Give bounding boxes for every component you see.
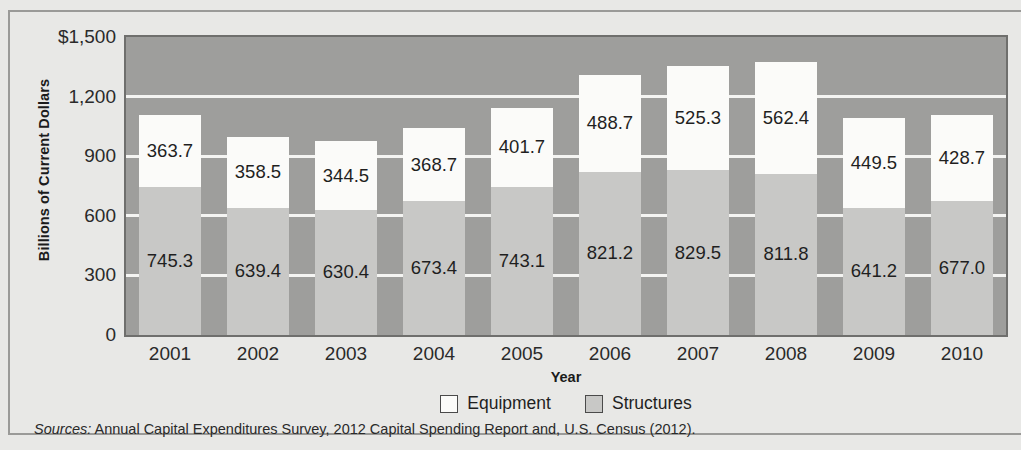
x-tick-label: 2006 <box>589 343 631 365</box>
bar-segment-structures[interactable]: 829.5 <box>667 170 729 335</box>
legend-swatch-equipment <box>440 395 458 413</box>
bar-segment-structures[interactable]: 673.4 <box>403 201 465 335</box>
bar-value-label: 449.5 <box>851 152 897 174</box>
bar-value-label: 821.2 <box>587 242 633 264</box>
bar-segment-structures[interactable]: 677.0 <box>931 201 993 335</box>
bar-segment-equipment[interactable]: 562.4 <box>755 62 817 174</box>
bar-value-label: 745.3 <box>147 250 193 272</box>
bar-value-label: 363.7 <box>147 140 193 162</box>
bar-value-label: 630.4 <box>323 261 369 283</box>
y-tick-label: $1,500 <box>20 26 116 48</box>
y-tick-label: 900 <box>20 145 116 167</box>
source-label: Sources: <box>34 421 91 437</box>
bar-group[interactable]: 562.4811.8 <box>755 62 817 335</box>
x-tick-label: 2010 <box>941 343 983 365</box>
x-tick-label: 2001 <box>149 343 191 365</box>
legend-swatch-structures <box>585 395 603 413</box>
y-tick-label: 600 <box>20 205 116 227</box>
source-text: Annual Capital Expenditures Survey, 2012… <box>91 421 695 437</box>
bar-segment-equipment[interactable]: 525.3 <box>667 66 729 170</box>
bar-segment-structures[interactable]: 745.3 <box>139 187 201 335</box>
bar-group[interactable]: 363.7745.3 <box>139 115 201 335</box>
y-tick-label: 300 <box>20 264 116 286</box>
plot-area: 363.7745.3358.5639.4344.5630.4368.7673.4… <box>124 35 1008 337</box>
bar-segment-structures[interactable]: 639.4 <box>227 208 289 335</box>
legend-label: Equipment <box>467 393 551 414</box>
bar-value-label: 401.7 <box>499 136 545 158</box>
bar-segment-structures[interactable]: 743.1 <box>491 187 553 335</box>
bar-value-label: 562.4 <box>763 107 809 129</box>
bar-segment-equipment[interactable]: 358.5 <box>227 137 289 208</box>
x-tick-label: 2009 <box>853 343 895 365</box>
gridline <box>126 95 1006 98</box>
bar-value-label: 677.0 <box>939 257 985 279</box>
bar-segment-equipment[interactable]: 449.5 <box>843 118 905 207</box>
x-tick-label: 2002 <box>237 343 279 365</box>
y-tick-label: 0 <box>20 324 116 346</box>
bar-group[interactable]: 368.7673.4 <box>403 128 465 335</box>
bar-segment-equipment[interactable]: 488.7 <box>579 75 641 172</box>
bar-segment-structures[interactable]: 811.8 <box>755 174 817 335</box>
bar-value-label: 344.5 <box>323 165 369 187</box>
bar-group[interactable]: 401.7743.1 <box>491 108 553 335</box>
legend-item[interactable]: Equipment <box>440 393 551 414</box>
bar-segment-structures[interactable]: 641.2 <box>843 208 905 335</box>
bar-segment-structures[interactable]: 821.2 <box>579 172 641 335</box>
bar-value-label: 488.7 <box>587 112 633 134</box>
bar-value-label: 368.7 <box>411 154 457 176</box>
bar-group[interactable]: 344.5630.4 <box>315 141 377 335</box>
y-tick-label: 1,200 <box>20 86 116 108</box>
bar-value-label: 639.4 <box>235 260 281 282</box>
legend-label: Structures <box>612 393 692 414</box>
x-tick-label: 2003 <box>325 343 367 365</box>
chart-frame: Billions of Current Dollars 03006009001,… <box>8 10 1021 435</box>
x-tick-label: 2008 <box>765 343 807 365</box>
bar-segment-equipment[interactable]: 344.5 <box>315 141 377 209</box>
x-tick-label: 2004 <box>413 343 455 365</box>
legend-item[interactable]: Structures <box>585 393 692 414</box>
bar-value-label: 525.3 <box>675 107 721 129</box>
source-note: Sources: Annual Capital Expenditures Sur… <box>34 421 696 437</box>
bar-group[interactable]: 358.5639.4 <box>227 137 289 335</box>
chart-legend: EquipmentStructures <box>124 393 1008 414</box>
bar-group[interactable]: 428.7677.0 <box>931 115 993 335</box>
chart-figure: Billions of Current Dollars 03006009001,… <box>0 0 1021 450</box>
bar-value-label: 811.8 <box>764 243 809 265</box>
bar-segment-equipment[interactable]: 401.7 <box>491 108 553 188</box>
x-tick-label: 2007 <box>677 343 719 365</box>
bar-segment-equipment[interactable]: 428.7 <box>931 115 993 200</box>
y-axis-tick-labels: 03006009001,200$1,500 <box>18 35 116 337</box>
x-axis-title: Year <box>124 369 1008 385</box>
plot-inner: 363.7745.3358.5639.4344.5630.4368.7673.4… <box>126 37 1006 335</box>
bar-group[interactable]: 525.3829.5 <box>667 66 729 335</box>
x-tick-label: 2005 <box>501 343 543 365</box>
bar-value-label: 673.4 <box>411 257 457 279</box>
bar-value-label: 829.5 <box>675 242 721 264</box>
bar-group[interactable]: 449.5641.2 <box>843 118 905 335</box>
bar-value-label: 358.5 <box>235 161 281 183</box>
x-axis-tick-labels: 2001200220032004200520062007200820092010 <box>124 343 1008 369</box>
bar-segment-equipment[interactable]: 363.7 <box>139 115 201 187</box>
bar-value-label: 428.7 <box>939 147 985 169</box>
bar-value-label: 641.2 <box>851 260 897 282</box>
bar-value-label: 743.1 <box>499 250 545 272</box>
bar-segment-structures[interactable]: 630.4 <box>315 210 377 335</box>
bar-segment-equipment[interactable]: 368.7 <box>403 128 465 201</box>
bar-group[interactable]: 488.7821.2 <box>579 75 641 335</box>
